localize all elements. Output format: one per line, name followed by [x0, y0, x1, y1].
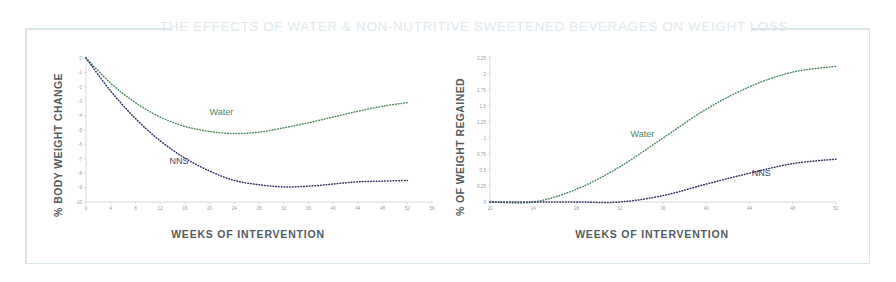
- svg-text:32: 32: [281, 206, 287, 211]
- plot-area-left: 0-1-2-3-4-5-6-7-8-9-10048121620242832364…: [60, 50, 438, 225]
- svg-text:-3: -3: [78, 99, 83, 104]
- page-title: THE EFFECTS OF WATER & NON-NUTRITIVE SWE…: [160, 19, 736, 34]
- svg-text:1.25: 1.25: [477, 120, 486, 125]
- svg-text:24: 24: [232, 206, 238, 211]
- x-axis-title-left: WEEKS OF INTERVENTION: [98, 228, 398, 240]
- svg-text:16: 16: [182, 206, 188, 211]
- svg-text:0: 0: [85, 206, 88, 211]
- series-line-water: [490, 66, 836, 203]
- svg-text:-4: -4: [78, 113, 83, 118]
- svg-text:40: 40: [704, 206, 710, 211]
- svg-text:4: 4: [109, 206, 112, 211]
- svg-text:0: 0: [79, 56, 82, 61]
- frame-left-edge: [25, 28, 27, 264]
- chart-body-weight-change: % BODY WEIGHT CHANGE WEEKS OF INTERVENTI…: [38, 50, 438, 255]
- x-axis-title-right: WEEKS OF INTERVENTION: [502, 228, 802, 240]
- svg-text:24: 24: [531, 206, 537, 211]
- svg-text:28: 28: [256, 206, 262, 211]
- series-annotation-nns: NNS: [169, 156, 188, 166]
- series-annotation-water: Water: [631, 129, 655, 139]
- series-line-nns: [490, 159, 836, 202]
- svg-text:-7: -7: [78, 157, 83, 162]
- svg-text:0.25: 0.25: [477, 184, 486, 189]
- svg-text:0: 0: [483, 200, 486, 205]
- svg-text:52: 52: [833, 206, 839, 211]
- chart-weight-regained: % OF WEIGHT REGAINED WEEKS OF INTERVENTI…: [442, 50, 842, 255]
- svg-text:20: 20: [487, 206, 493, 211]
- svg-text:-10: -10: [75, 200, 82, 205]
- svg-text:2: 2: [483, 72, 486, 77]
- svg-text:8: 8: [134, 206, 137, 211]
- series-annotation-water: Water: [210, 107, 234, 117]
- svg-text:0.75: 0.75: [477, 152, 486, 157]
- svg-text:-9: -9: [78, 185, 83, 190]
- svg-text:1: 1: [483, 136, 486, 141]
- svg-text:2.25: 2.25: [477, 56, 486, 61]
- svg-text:28: 28: [574, 206, 580, 211]
- frame-bottom-edge: [25, 263, 870, 265]
- svg-text:36: 36: [660, 206, 666, 211]
- frame-top-left-segment: [25, 28, 173, 30]
- svg-text:36: 36: [306, 206, 312, 211]
- svg-text:44: 44: [747, 206, 753, 211]
- svg-text:-8: -8: [78, 171, 83, 176]
- svg-text:1.75: 1.75: [477, 88, 486, 93]
- svg-text:48: 48: [790, 206, 796, 211]
- svg-text:-2: -2: [78, 85, 83, 90]
- svg-text:-5: -5: [78, 128, 83, 133]
- svg-text:52: 52: [405, 206, 411, 211]
- svg-text:-1: -1: [78, 70, 83, 75]
- svg-text:56: 56: [429, 206, 435, 211]
- frame-right-edge: [869, 28, 871, 264]
- plot-area-right: 00.250.50.7511.251.51.7522.2520242832364…: [464, 50, 842, 225]
- svg-text:44: 44: [355, 206, 361, 211]
- svg-text:12: 12: [158, 206, 164, 211]
- series-annotation-nns: NNS: [752, 168, 771, 178]
- svg-text:20: 20: [207, 206, 213, 211]
- series-line-nns: [86, 58, 407, 187]
- svg-text:48: 48: [380, 206, 386, 211]
- svg-text:-6: -6: [78, 142, 83, 147]
- series-line-water: [86, 58, 407, 134]
- svg-text:0.5: 0.5: [480, 168, 487, 173]
- svg-text:1.5: 1.5: [480, 104, 487, 109]
- svg-text:40: 40: [331, 206, 337, 211]
- svg-text:32: 32: [617, 206, 623, 211]
